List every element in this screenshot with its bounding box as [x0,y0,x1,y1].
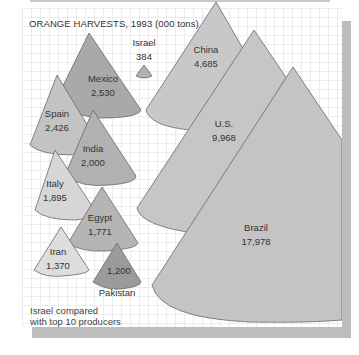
label-brazil: Brazil 17,978 [241,221,270,249]
footnote: Israel compared with top 10 producers [30,305,121,327]
label-israel: Israel 384 [132,36,155,64]
label-spain: Spain 2,426 [45,107,69,135]
name-pakistan: Pakistan [99,286,135,300]
chart-title: ORANGE HARVESTS, 1993 (000 tons) [29,18,199,29]
label-egypt: Egypt 1,771 [88,211,112,239]
label-italy: Italy 1,895 [43,177,67,205]
value-pakistan: 1,200 [107,264,131,278]
label-mexico: Mexico 2,530 [88,72,118,100]
label-china: China 4,685 [194,43,219,71]
cone-israel [136,65,152,78]
label-iran: Iran 1,370 [46,245,70,273]
label-us: U.S. 9,968 [212,117,236,145]
label-india: India 2,000 [81,142,105,170]
